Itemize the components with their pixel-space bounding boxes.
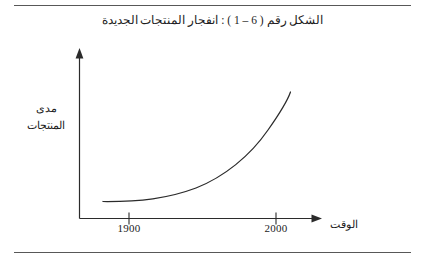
y-axis-arrowhead: [76, 48, 84, 59]
y-axis-label: مدى المنتجات: [14, 100, 78, 134]
figure-page: الشكل رقم ( 6 – 1 ) : انفجار المنتجات ال…: [0, 0, 425, 264]
x-axis-label: الوقت: [330, 217, 358, 231]
x-tick-label-2000: 2000: [265, 221, 288, 235]
x-axis-arrowhead: [312, 214, 323, 222]
y-axis-label-line-1: مدى: [14, 100, 78, 117]
y-axis-label-line-2: المنتجات: [14, 117, 78, 134]
x-tick-label-1900: 1900: [118, 221, 141, 235]
bottom-divider-rule: [14, 252, 411, 253]
exponential-growth-curve: [103, 92, 291, 202]
